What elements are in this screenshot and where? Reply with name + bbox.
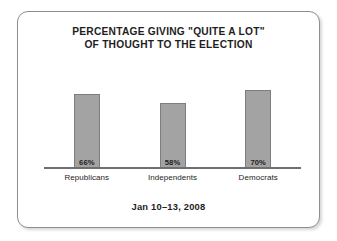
bar-democrats [245,90,271,168]
bar-slot-democrats: 70% [215,67,301,167]
bar-value-democrats: 70% [215,158,301,167]
chart-card-inner: PERCENTAGE GIVING "QUITE A LOT" OF THOUG… [18,12,319,227]
x-axis-line [44,167,301,169]
bar-value-republicans: 66% [44,158,130,167]
chart-card: PERCENTAGE GIVING "QUITE A LOT" OF THOUG… [17,11,320,228]
category-label-democrats: Democrats [215,173,301,182]
bar-group: 66% 58% 70% [44,67,301,167]
chart-screenshot: PERCENTAGE GIVING "QUITE A LOT" OF THOUG… [0,0,337,241]
bar-value-independents: 58% [130,158,216,167]
chart-footer-note: Jan 10–13, 2008 [18,201,319,212]
plot-area: 66% 58% 70% [44,67,301,169]
chart-title: PERCENTAGE GIVING "QUITE A LOT" OF THOUG… [18,25,319,51]
chart-title-line-1: PERCENTAGE GIVING "QUITE A LOT" [18,25,319,38]
category-labels: Republicans Independents Democrats [44,173,301,182]
category-label-independents: Independents [130,173,216,182]
chart-title-line-2: OF THOUGHT TO THE ELECTION [18,38,319,51]
bar-slot-republicans: 66% [44,67,130,167]
bar-slot-independents: 58% [130,67,216,167]
bar-republicans [74,94,100,167]
category-label-republicans: Republicans [44,173,130,182]
